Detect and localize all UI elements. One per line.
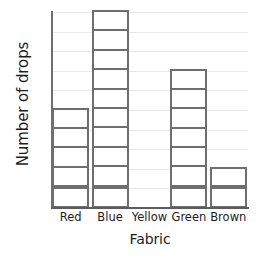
bar-red — [52, 110, 89, 208]
bar-blue — [92, 12, 129, 208]
bar-segment — [170, 127, 207, 148]
bar-segment — [170, 187, 207, 208]
bar-brown — [210, 169, 247, 208]
bar-segment — [92, 10, 129, 31]
bar-segment — [52, 127, 89, 148]
x-tick-label-green: Green — [169, 210, 208, 224]
bar-segment — [170, 146, 207, 167]
bar-segment — [170, 88, 207, 109]
bar-segment — [92, 68, 129, 89]
x-tick-label-yellow: Yellow — [130, 210, 169, 224]
bars-layer — [51, 12, 248, 208]
y-axis-title: Number of drops — [0, 0, 46, 208]
x-tick-label-brown: Brown — [209, 210, 248, 224]
bar-segment — [210, 187, 247, 208]
x-axis-title: Fabric — [51, 231, 249, 247]
bar-segment — [52, 108, 89, 129]
x-axis-line — [51, 207, 249, 209]
bar-green — [170, 71, 207, 208]
y-axis-line — [51, 11, 53, 209]
bar-segment — [52, 146, 89, 167]
bar-segment — [92, 165, 129, 186]
bar-segment — [92, 107, 129, 128]
bar-segment — [92, 126, 129, 147]
bar-chart: Number of drops RedBlueYellowGreenBrown … — [0, 0, 275, 264]
x-tick-label-blue: Blue — [90, 210, 129, 224]
bar-segment — [170, 107, 207, 128]
bar-segment — [92, 88, 129, 109]
bar-segment — [210, 167, 247, 188]
bar-segment — [52, 187, 89, 208]
plot-area — [51, 12, 248, 208]
bar-segment — [52, 166, 89, 187]
bar-segment — [92, 146, 129, 167]
bar-segment — [92, 187, 129, 208]
bar-segment — [170, 165, 207, 186]
x-tick-label-red: Red — [51, 210, 90, 224]
x-axis-tick-labels: RedBlueYellowGreenBrown — [51, 210, 249, 228]
bar-segment — [92, 29, 129, 50]
bar-segment — [92, 49, 129, 70]
bar-segment — [170, 69, 207, 90]
